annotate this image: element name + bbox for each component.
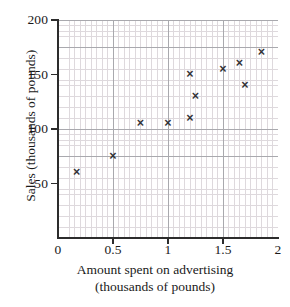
y-axis-tick bbox=[51, 74, 58, 76]
x-axis-title-line-2: (thousands of pounds) bbox=[30, 279, 280, 296]
data-point-marker: × bbox=[71, 167, 82, 178]
x-axis-tick-label: 1 bbox=[148, 243, 188, 257]
data-point-marker: × bbox=[163, 118, 174, 129]
y-axis-tick bbox=[51, 183, 58, 185]
x-axis-title-line-1: Amount spent on advertising bbox=[30, 262, 280, 279]
data-point-marker: × bbox=[218, 64, 229, 75]
data-point-marker: × bbox=[135, 118, 146, 129]
data-point-marker: × bbox=[234, 58, 245, 69]
x-axis-tick-label: 0.5 bbox=[93, 243, 133, 257]
x-axis-tick-label: 0 bbox=[38, 243, 78, 257]
scatter-chart-figure: 5010015020000.511.52 ××××××××××× Amount … bbox=[0, 0, 290, 307]
y-axis-tick bbox=[51, 128, 58, 130]
y-axis-tick bbox=[51, 19, 58, 21]
x-axis-title: Amount spent on advertising (thousands o… bbox=[30, 262, 280, 295]
x-axis-tick-label: 2 bbox=[258, 243, 290, 257]
data-point-marker: × bbox=[185, 69, 196, 80]
y-axis-title: Sales (thousands of pounds) bbox=[24, 16, 38, 236]
data-point-marker: × bbox=[185, 113, 196, 124]
x-axis-tick-label: 1.5 bbox=[203, 243, 243, 257]
data-point-marker: × bbox=[240, 80, 251, 91]
data-point-marker: × bbox=[108, 151, 119, 162]
data-point-marker: × bbox=[256, 47, 267, 58]
data-point-marker: × bbox=[190, 91, 201, 102]
